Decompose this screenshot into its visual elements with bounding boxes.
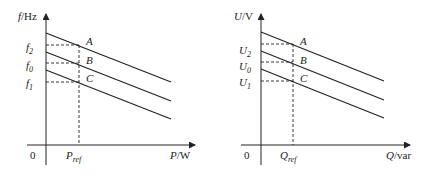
right-line-c	[261, 69, 384, 118]
left-line-b	[46, 52, 171, 101]
right-origin: 0	[244, 150, 250, 161]
ref-sub: ref	[73, 155, 82, 164]
tick-sub: 2	[247, 50, 251, 59]
right-point-c: C	[300, 73, 307, 84]
droop-diagrams	[0, 0, 421, 176]
tick-sub: 1	[29, 83, 33, 92]
left-tick-f0: f0	[26, 60, 33, 74]
x-unit: /var	[394, 149, 411, 161]
right-line-a	[261, 32, 384, 81]
left-line-c	[46, 70, 171, 119]
tick-var: U	[239, 44, 247, 56]
right-tick-u1: U1	[239, 77, 251, 91]
y-var: U	[234, 10, 242, 22]
left-point-c: C	[86, 73, 93, 84]
left-chart	[27, 14, 195, 165]
right-tick-u2: U2	[239, 45, 251, 59]
tick-var: U	[239, 76, 247, 88]
tick-sub: 1	[247, 82, 251, 91]
left-x-axis-label: P/W	[170, 150, 190, 161]
left-y-axis-label: f/Hz	[18, 11, 37, 22]
left-line-a	[46, 33, 171, 82]
left-origin: 0	[30, 150, 36, 161]
tick-var: U	[239, 60, 247, 72]
left-point-b: B	[86, 55, 93, 66]
y-unit: /Hz	[21, 10, 37, 22]
right-ref-label: Qref	[280, 150, 297, 164]
tick-sub: 0	[247, 66, 251, 75]
right-line-b	[261, 51, 384, 100]
ref-var: P	[66, 149, 73, 161]
ref-sub: ref	[288, 155, 297, 164]
left-tick-f1: f1	[26, 78, 33, 92]
x-unit: /W	[177, 149, 190, 161]
right-point-b: B	[300, 55, 307, 66]
x-var: P	[170, 149, 177, 161]
left-ref-label: Pref	[66, 150, 81, 164]
left-tick-f2: f2	[26, 42, 33, 56]
right-x-axis-label: Q/var	[386, 150, 411, 161]
right-point-a: A	[300, 36, 307, 47]
right-tick-u0: U0	[239, 61, 251, 75]
x-var: Q	[386, 149, 394, 161]
tick-sub: 2	[29, 47, 33, 56]
right-y-axis-label: U/V	[234, 11, 253, 22]
y-unit: /V	[242, 10, 253, 22]
ref-var: Q	[280, 149, 288, 161]
right-chart	[241, 14, 410, 165]
tick-sub: 0	[29, 65, 33, 74]
left-point-a: A	[86, 36, 93, 47]
